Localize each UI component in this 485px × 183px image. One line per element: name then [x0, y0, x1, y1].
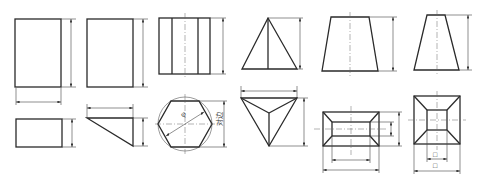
rect-prism-top-view [16, 119, 76, 147]
frustum-square-front-view [414, 10, 472, 76]
frustum-rect-top-view [314, 106, 402, 173]
triangular-pyramid-top-view [241, 86, 308, 146]
hexagonal-prism-front-view [159, 13, 226, 79]
frustum-rect-front-view [322, 12, 397, 76]
bottom-side-label: □ [433, 162, 438, 169]
across-flats-label: 对边 [215, 112, 224, 126]
triangular-pyramid-front-view [242, 18, 303, 69]
orthographic-drawing: φ 对边 [0, 0, 485, 183]
diameter-label: φ [179, 109, 188, 119]
rect-prism-front-view [15, 19, 76, 105]
triangular-prism-top-view [87, 104, 148, 146]
triangular-prism-front-view [87, 19, 148, 87]
hexagonal-prism-top-view: φ 对边 [155, 94, 227, 154]
frustum-square-top-view: □ □ [408, 91, 466, 174]
top-side-label: □ [433, 151, 438, 158]
